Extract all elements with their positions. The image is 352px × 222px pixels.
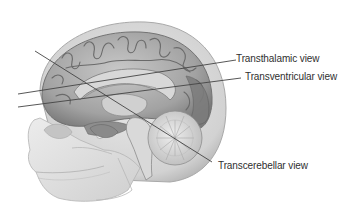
label-transthalamic-view: Transthalamic view (236, 54, 319, 64)
label-transventricular-view: Transventricular view (245, 72, 337, 82)
anatomy-illustration (0, 0, 352, 222)
head-sagittal-diagram: Transthalamic view Transventricular view… (0, 0, 352, 222)
cerebellum (148, 111, 202, 165)
label-transcerebellar-view: Transcerebellar view (218, 161, 308, 171)
